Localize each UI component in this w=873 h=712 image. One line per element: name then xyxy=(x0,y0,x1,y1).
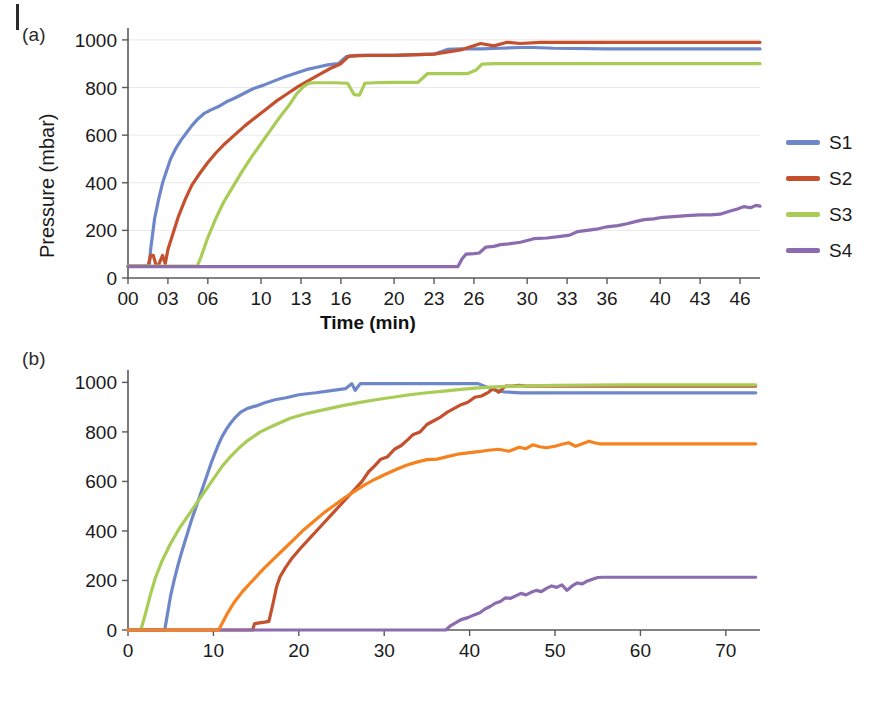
chart-panel-b: (b) Pressure (mbar) Time (min) 020040060… xyxy=(0,330,873,712)
svg-text:600: 600 xyxy=(85,125,117,146)
svg-text:800: 800 xyxy=(85,422,117,443)
legend-item-s1[interactable]: S1 xyxy=(786,124,852,160)
legend-swatch-s4 xyxy=(786,248,820,253)
series-line-s3 xyxy=(128,441,756,630)
legend-label-s1: S1 xyxy=(829,133,852,152)
svg-text:23: 23 xyxy=(423,288,444,309)
legend-swatch-s2 xyxy=(786,176,820,181)
series-line-s3 xyxy=(128,64,760,266)
legend-swatch-s3 xyxy=(786,212,820,217)
svg-text:30: 30 xyxy=(517,288,538,309)
svg-text:200: 200 xyxy=(85,570,117,591)
legend-label-s2: S2 xyxy=(829,169,852,188)
figure-page: (a) Pressure (mbar) Time (min) 020040060… xyxy=(0,0,873,712)
svg-text:60: 60 xyxy=(630,640,651,661)
series-line-s4 xyxy=(128,385,756,630)
legend-item-s4[interactable]: S4 xyxy=(786,232,852,268)
panel-b-label: (b) xyxy=(22,348,46,370)
svg-text:30: 30 xyxy=(374,640,395,661)
svg-text:06: 06 xyxy=(197,288,218,309)
legend-item-s3[interactable]: S3 xyxy=(786,196,852,232)
svg-text:46: 46 xyxy=(729,288,750,309)
legend-swatch-s1 xyxy=(786,140,820,145)
legend-label-s3: S3 xyxy=(829,205,852,224)
svg-text:200: 200 xyxy=(85,220,117,241)
svg-text:26: 26 xyxy=(463,288,484,309)
svg-text:03: 03 xyxy=(157,288,178,309)
series-line-s2 xyxy=(128,384,756,630)
chart-panel-a: (a) Pressure (mbar) Time (min) 020040060… xyxy=(0,0,873,338)
svg-text:43: 43 xyxy=(690,288,711,309)
svg-text:20: 20 xyxy=(384,288,405,309)
svg-text:36: 36 xyxy=(596,288,617,309)
svg-text:50: 50 xyxy=(544,640,565,661)
svg-text:800: 800 xyxy=(85,78,117,99)
panel-a-y-axis-label: Pressure (mbar) xyxy=(36,114,59,258)
legend-item-s2[interactable]: S2 xyxy=(786,160,852,196)
svg-text:1000: 1000 xyxy=(75,372,117,393)
svg-text:0: 0 xyxy=(106,620,117,641)
svg-text:10: 10 xyxy=(250,288,271,309)
svg-text:0: 0 xyxy=(106,268,117,289)
svg-text:400: 400 xyxy=(85,521,117,542)
svg-text:13: 13 xyxy=(290,288,311,309)
svg-text:00: 00 xyxy=(117,288,138,309)
svg-text:10: 10 xyxy=(203,640,224,661)
panel-a-label: (a) xyxy=(22,24,46,46)
svg-text:40: 40 xyxy=(459,640,480,661)
series-line-s1 xyxy=(128,48,760,267)
svg-text:400: 400 xyxy=(85,173,117,194)
svg-text:33: 33 xyxy=(557,288,578,309)
panel-b-plot: 02004006008001000010203040506070 xyxy=(60,350,780,680)
svg-text:70: 70 xyxy=(715,640,736,661)
svg-text:16: 16 xyxy=(330,288,351,309)
panel-a-legend: S1S2S3S4 xyxy=(786,124,852,268)
panel-a-plot: 0200400600800100000030610131620232630333… xyxy=(60,10,780,310)
series-line-s4 xyxy=(128,205,760,266)
series-line-s2 xyxy=(128,42,760,266)
legend-label-s4: S4 xyxy=(829,241,852,260)
series-line-s1 xyxy=(128,385,756,630)
svg-text:0: 0 xyxy=(123,640,134,661)
svg-text:600: 600 xyxy=(85,471,117,492)
svg-text:20: 20 xyxy=(288,640,309,661)
svg-text:40: 40 xyxy=(650,288,671,309)
svg-text:1000: 1000 xyxy=(75,30,117,51)
